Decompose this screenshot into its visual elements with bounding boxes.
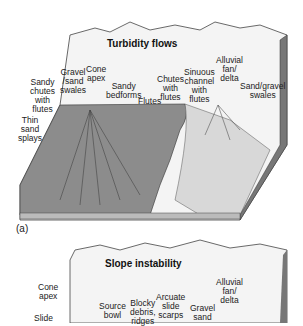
label-sandy-bedforms: Sandy bedforms <box>106 82 141 100</box>
label-gravel-sand-swales: Gravel /sand swales <box>60 68 86 95</box>
label-sinuous-channel: Sinuous channel with flutes <box>184 68 215 104</box>
label-cone-apex: Cone apex <box>86 65 106 83</box>
panel-b-title: Slope instability <box>105 258 182 269</box>
label-arcuate-scarps: Arcuate slide scarps <box>156 293 185 320</box>
label-alluvial-fan-b: Alluvial fan/ delta <box>216 278 243 305</box>
label-blocky-debris: Blocky debris, ridges <box>130 299 156 326</box>
label-sandy-chutes: Sandy chutes with flutes <box>30 78 55 114</box>
panel-a-title: Turbidity flows <box>107 38 177 49</box>
label-slide: Slide <box>34 314 53 323</box>
panel-a-caption: (a) <box>16 224 28 233</box>
label-source-bowl: Source bowl <box>99 302 126 320</box>
label-sand-gravel-swales: Sand/gravel swales <box>240 82 285 100</box>
label-thin-sand-splays: Thin sand splays <box>18 116 42 143</box>
label-cone-apex-b: Cone apex <box>38 283 58 301</box>
label-alluvial-fan-a: Alluvial fan/ delta <box>216 56 243 83</box>
label-gravel-sand: Gravel sand <box>190 304 215 322</box>
label-chutes-with-flutes: Chutes with flutes <box>157 75 184 102</box>
